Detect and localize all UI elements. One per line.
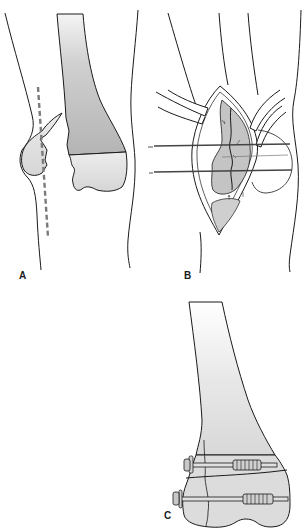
thigh-inner-line-2 — [248, 13, 258, 95]
screw-head — [184, 459, 190, 471]
panel-b — [154, 10, 301, 273]
panel-c — [173, 302, 290, 527]
fracture-fixation-figure — [0, 0, 308, 532]
lateral-condyle — [69, 152, 127, 191]
panel-label-c: C — [164, 511, 171, 521]
kirschner-wire-upper — [154, 144, 290, 146]
screw-thread — [243, 494, 273, 504]
kirschner-wire-lower — [154, 170, 292, 172]
leg-outline-right — [289, 10, 301, 272]
leg-outline-left-lower — [200, 232, 201, 273]
femur-shaft — [189, 302, 275, 455]
thigh-inner-line — [219, 13, 228, 85]
washer — [179, 490, 182, 508]
leg-outline-right — [128, 10, 138, 268]
panel-label-b: B — [184, 271, 191, 281]
panel-a — [5, 10, 153, 270]
screw-head — [173, 492, 179, 505]
panel-label-a: A — [19, 271, 26, 281]
retractor-left — [156, 90, 208, 116]
femur-shaft — [57, 14, 126, 155]
